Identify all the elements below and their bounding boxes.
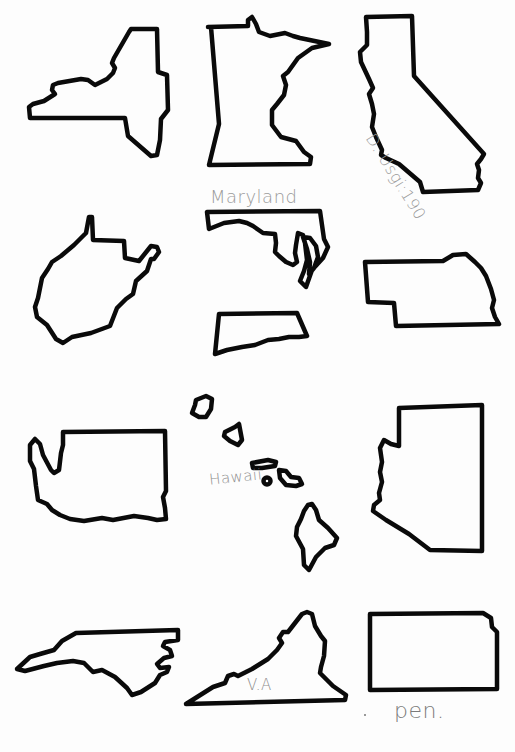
state-outline-north-carolina (17, 630, 178, 695)
state-outline-west-virginia (35, 217, 159, 343)
state-outline-washington (30, 431, 166, 521)
state-outline-kansas (370, 613, 497, 690)
state-outline-maryland (207, 211, 328, 287)
state-outline-pennsylvania (215, 313, 307, 354)
state-outlines (0, 0, 515, 752)
state-outline-minnesota (208, 17, 329, 165)
state-outline-hawaii-oahu (224, 424, 242, 445)
state-outline-arizona (373, 405, 482, 551)
worksheet-page: D. Usgi:190 Maryland Hawaii V.A pen. (0, 0, 515, 752)
state-outline-hawaii-kauai (192, 396, 212, 417)
pencil-dot-mark (364, 714, 366, 716)
maryland-handwritten-label: Maryland (210, 186, 297, 207)
pen-handwritten-note: pen. (394, 698, 444, 723)
state-outline-hawaii-lanai (264, 478, 271, 485)
state-outline-new-york (29, 29, 168, 156)
state-outline-hawaii-big-island (296, 504, 337, 570)
virginia-handwritten-label: V.A (247, 676, 272, 694)
state-outline-hawaii-maui (279, 470, 302, 486)
state-outline-nebraska (365, 254, 499, 326)
